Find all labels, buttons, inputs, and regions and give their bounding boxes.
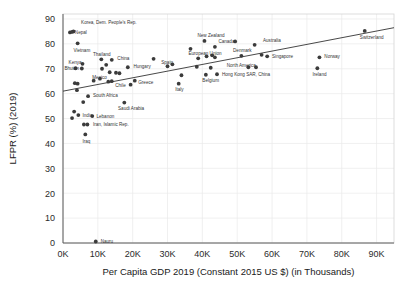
data-point xyxy=(195,65,199,69)
data-point xyxy=(215,72,219,76)
data-point-label: Australia xyxy=(263,38,281,43)
data-point xyxy=(100,67,104,71)
data-point-label: Chile xyxy=(115,83,126,88)
gridlines xyxy=(63,14,394,243)
data-point-label: Bhutan xyxy=(64,66,79,71)
x-tick-label: 70K xyxy=(299,249,315,259)
point-labels: Korea, Dem. People's Rep.NepalVietnamKen… xyxy=(64,20,384,244)
data-point xyxy=(83,133,87,137)
data-point-label: Saudi Arabia xyxy=(118,106,144,111)
data-point-label: Spain xyxy=(161,60,173,65)
data-point xyxy=(106,80,110,84)
data-point-label: Belgium xyxy=(202,78,219,83)
y-tick-label: 10 xyxy=(45,213,55,223)
chart-canvas: Korea, Dem. People's Rep.NepalVietnamKen… xyxy=(0,0,402,296)
plot-frame xyxy=(63,14,394,243)
data-point-label: European Union xyxy=(188,51,222,56)
y-tick-label: 80 xyxy=(45,39,55,49)
data-point-label: Kenya xyxy=(69,60,82,65)
data-point xyxy=(76,82,80,86)
data-point xyxy=(122,101,126,105)
data-point xyxy=(114,71,118,75)
data-point xyxy=(239,54,243,58)
y-tick-label: 0 xyxy=(50,238,55,248)
data-point xyxy=(85,123,89,127)
data-point-label: South Africa xyxy=(93,93,118,98)
x-tick-label: 20K xyxy=(125,249,141,259)
data-point xyxy=(260,53,264,57)
data-point xyxy=(110,79,114,83)
data-point xyxy=(70,30,74,34)
x-tick-label: 80K xyxy=(334,249,350,259)
x-tick-label: 60K xyxy=(264,249,280,259)
data-point-label: Italy xyxy=(175,87,184,92)
data-point xyxy=(75,88,79,92)
data-point-label: India xyxy=(83,113,93,118)
data-point xyxy=(129,83,133,87)
data-point xyxy=(86,94,90,98)
data-point xyxy=(315,66,319,70)
data-point-label: Nauru xyxy=(101,239,114,244)
data-point-label: North America xyxy=(227,63,257,68)
data-point xyxy=(70,116,74,120)
x-tick-label: 0K xyxy=(57,249,68,259)
data-point xyxy=(177,82,181,86)
data-point xyxy=(82,123,86,127)
data-point xyxy=(76,113,80,117)
x-axis-ticks: 0K10K20K30K40K50K60K70K80K90K xyxy=(57,249,384,259)
data-point xyxy=(196,56,200,60)
data-point xyxy=(213,45,217,49)
data-point-label: New Zealand xyxy=(197,33,225,38)
data-point xyxy=(152,57,156,61)
data-point-label: Lebanon xyxy=(96,114,114,119)
y-axis-ticks: 0102030405060708090 xyxy=(45,14,55,248)
data-point xyxy=(108,70,112,74)
data-point xyxy=(110,58,114,62)
data-point-label: Nepal xyxy=(75,30,87,35)
data-point xyxy=(104,63,108,67)
data-point-label: Greece xyxy=(138,80,154,85)
data-point-label: Vietnam xyxy=(73,48,90,53)
data-point-label: Canada xyxy=(218,39,235,44)
data-point xyxy=(189,47,193,51)
data-point xyxy=(133,79,137,83)
data-point xyxy=(209,66,213,70)
data-point-label: Singapore xyxy=(272,54,293,59)
y-tick-label: 50 xyxy=(45,114,55,124)
data-point-label: Thailand xyxy=(93,52,111,57)
data-point-label: Hungary xyxy=(133,64,151,69)
data-point xyxy=(72,110,76,114)
y-axis-title: LFPR (%) (2019) xyxy=(7,93,18,165)
data-point-label: China xyxy=(117,56,129,61)
y-tick-label: 70 xyxy=(45,64,55,74)
data-point xyxy=(81,100,85,104)
x-axis-title: Per Capita GDP 2019 (Constant 2015 US $)… xyxy=(102,266,354,277)
data-point-label: Iraq xyxy=(83,139,91,144)
data-point xyxy=(318,55,322,59)
data-point xyxy=(363,29,367,33)
data-point xyxy=(203,39,207,43)
data-point-label: Norway xyxy=(324,54,340,59)
data-point-label: Denmark xyxy=(233,48,252,53)
data-point xyxy=(76,41,80,45)
data-point xyxy=(118,71,122,75)
x-tick-label: 10K xyxy=(90,249,106,259)
y-tick-label: 40 xyxy=(45,139,55,149)
data-point-label: Iran, Islamic Rep. xyxy=(93,122,129,127)
scatter-chart: Korea, Dem. People's Rep.NepalVietnamKen… xyxy=(0,0,402,296)
y-tick-label: 30 xyxy=(45,164,55,174)
data-point xyxy=(80,67,84,71)
data-point xyxy=(265,54,269,58)
data-point xyxy=(204,73,208,77)
data-point xyxy=(126,65,130,69)
data-point-label: Switzerland xyxy=(360,35,384,40)
y-tick-label: 60 xyxy=(45,89,55,99)
data-point-label: Korea, Dem. People's Rep. xyxy=(81,20,137,25)
data-point xyxy=(94,240,98,244)
x-tick-label: 30K xyxy=(160,249,176,259)
data-point xyxy=(253,43,257,47)
y-tick-label: 20 xyxy=(45,189,55,199)
x-tick-label: 40K xyxy=(194,249,210,259)
data-point-label: Ireland xyxy=(312,72,326,77)
x-tick-label: 90K xyxy=(369,249,385,259)
